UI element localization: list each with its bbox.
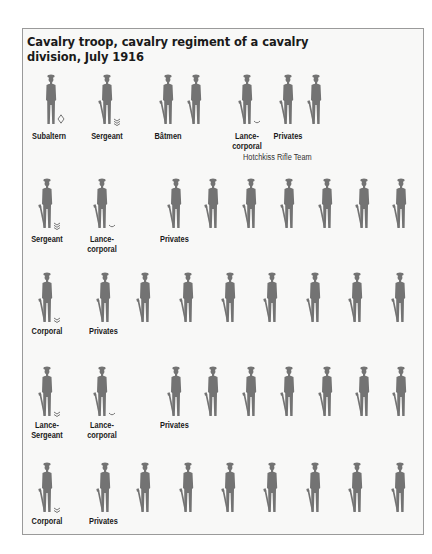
batman-label: Bâtmen	[154, 131, 181, 141]
private-label: Privates	[274, 131, 303, 141]
private-figure-icon	[261, 460, 283, 514]
private-figure-icon	[261, 270, 283, 324]
batman-figure-icon	[185, 72, 207, 126]
private-figure-icon	[134, 270, 156, 324]
private-label: Privates	[89, 516, 118, 526]
private-figure-icon	[177, 270, 199, 324]
private-figure-icon	[240, 176, 262, 230]
private-figure-icon	[277, 72, 299, 126]
two-chevron-icon	[53, 316, 61, 324]
private-figure-icon	[346, 270, 368, 324]
two-chevron-icon	[53, 410, 61, 418]
private-figure-icon	[219, 270, 241, 324]
hotchkiss-rifle-team-label: Hotchkiss Rifle Team	[243, 152, 312, 162]
sergeant-label: Sergeant	[31, 234, 63, 244]
private-figure-icon	[353, 176, 375, 230]
private-figure-icon	[165, 176, 187, 230]
private-figure-icon	[165, 364, 187, 418]
private-figure-icon	[389, 460, 411, 514]
diamond-icon	[57, 114, 65, 124]
single-chevron-icon	[253, 118, 261, 126]
private-figure-icon	[390, 364, 412, 418]
private-figure-icon	[304, 460, 326, 514]
subaltern-label: Subaltern	[32, 131, 66, 141]
sergeant-label: Sergeant	[91, 131, 123, 141]
private-figure-icon	[278, 176, 300, 230]
single-chevron-icon	[108, 410, 116, 418]
private-label: Privates	[89, 326, 118, 336]
private-figure-icon	[278, 364, 300, 418]
two-chevron-icon	[53, 506, 61, 514]
private-figure-icon	[389, 270, 411, 324]
private-figure-icon	[305, 72, 327, 126]
private-figure-icon	[240, 364, 262, 418]
three-chevron-icon	[53, 222, 61, 230]
private-figure-icon	[202, 364, 224, 418]
private-figure-icon	[202, 176, 224, 230]
batman-figure-icon	[157, 72, 179, 126]
private-figure-icon	[219, 460, 241, 514]
private-figure-icon	[316, 364, 338, 418]
private-figure-icon	[346, 460, 368, 514]
private-figure-icon	[134, 460, 156, 514]
private-figure-icon	[353, 364, 375, 418]
diagram-title: Cavalry troop, cavalry regiment of a cav…	[27, 35, 347, 65]
private-figure-icon	[94, 270, 116, 324]
private-figure-icon	[390, 176, 412, 230]
private-label: Privates	[160, 420, 189, 430]
private-figure-icon	[177, 460, 199, 514]
private-figure-icon	[94, 460, 116, 514]
lance-sergeant-label: Lance- Sergeant	[31, 420, 63, 440]
private-figure-icon	[304, 270, 326, 324]
three-chevron-icon	[113, 118, 121, 126]
corporal-label: Corporal	[32, 326, 63, 336]
lance-corporal-label: Lance- corporal	[87, 234, 117, 254]
private-figure-icon	[316, 176, 338, 230]
private-label: Privates	[160, 234, 189, 244]
lance-corporal-label: Lance- corporal	[232, 131, 262, 151]
lance-corporal-label: Lance- corporal	[87, 420, 117, 440]
corporal-label: Corporal	[32, 516, 63, 526]
single-chevron-icon	[108, 222, 116, 230]
